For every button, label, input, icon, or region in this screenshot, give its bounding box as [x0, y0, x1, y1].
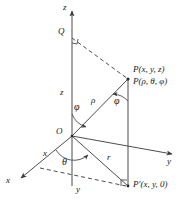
angle-phi-origin-label: φ: [74, 102, 80, 112]
point-p-prime-dot: [127, 185, 130, 188]
segment-rho-label: ρ: [91, 96, 95, 105]
x-axis-label: x: [6, 176, 10, 185]
point-p-dot: [126, 77, 129, 80]
spherical-coordinates-figure: z y x Q O P(x, y, z) P(ρ, θ, φ) P′(x, y,…: [0, 0, 183, 205]
r-segment: [72, 136, 128, 186]
point-p-spherical-label: P(ρ, θ, φ): [133, 77, 167, 86]
z-axis-label: z: [63, 3, 67, 12]
segment-r-label: r: [107, 153, 111, 162]
phi-arc-origin: [72, 114, 86, 127]
angle-phi-point-label: φ: [114, 96, 120, 106]
y-axis-label: y: [167, 157, 171, 166]
q-to-p-dashed: [72, 38, 128, 79]
point-p-prime-label: P′(x, y, 0): [133, 180, 167, 189]
segment-z-label: z: [60, 88, 64, 97]
point-p-label: P(x, y, z): [133, 65, 165, 74]
y-distance-dashed: [40, 168, 126, 186]
rho-segment: [72, 79, 128, 136]
angle-theta-label: θ: [62, 157, 67, 167]
y-axis-line: [72, 136, 172, 154]
origin-dot: [71, 135, 74, 138]
segment-x-label: x: [43, 149, 47, 158]
origin-label: O: [56, 127, 63, 136]
segment-y-label: y: [76, 185, 80, 194]
point-q-label: Q: [58, 27, 65, 36]
